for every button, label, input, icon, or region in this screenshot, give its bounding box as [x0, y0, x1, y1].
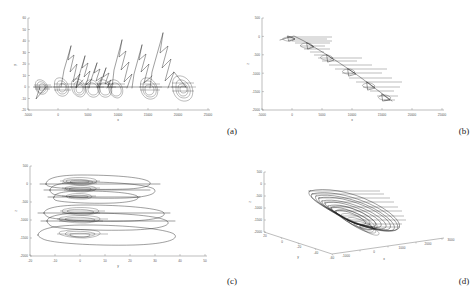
panel-d-ztick-2: -500 — [256, 194, 262, 198]
caption-b: (b) — [232, 126, 474, 136]
panel-c-xtick-7: 50 — [203, 259, 207, 263]
panel-d-ytick-2: -20 — [297, 245, 302, 249]
panel-c-xtick-1: -10 — [53, 259, 58, 263]
panel-a-trajectory — [33, 33, 196, 101]
panel-a-xtick-4: 15000 — [144, 113, 153, 117]
panel-c-axes: 500 0 -500 -1000 -1500 -2000 -20 -10 0 1… — [14, 164, 207, 268]
panel-c-ytick-4: -1500 — [20, 236, 28, 240]
panel-a-axes: 60 50 40 30 20 10 0 -10 -20 -5000 0 5000… — [13, 16, 213, 122]
panel-a-ytick-4: 20 — [23, 62, 27, 66]
panel-d-xtick-4: 3000 — [448, 238, 455, 242]
panel-c-xtick-6: 40 — [178, 259, 182, 263]
panel-b-xtick-3: 10000 — [348, 113, 357, 117]
panel-a-ytick-5: 10 — [23, 74, 27, 78]
panel-d-ztick-3: -1000 — [254, 206, 262, 210]
panel-b-xtick-6: 25000 — [438, 113, 447, 117]
panel-c-trajectory — [38, 175, 175, 245]
panel-b-yaxis-label: z — [246, 63, 250, 65]
panel-b-ytick-1: 0 — [258, 35, 260, 39]
panel-b-xtick-4: 15000 — [378, 113, 387, 117]
panel-a-ytick-7: -10 — [22, 97, 27, 101]
panel-c-ytick-1: 0 — [26, 182, 28, 186]
panel-a-ytick-3: 30 — [23, 51, 27, 55]
panel-b-trajectory — [280, 36, 402, 101]
panel-d-xtick-0: -1000 — [342, 254, 350, 258]
panel-d-ytick-3: -40 — [314, 251, 319, 255]
panel-a-xtick-1: 0 — [57, 113, 59, 117]
panel-d-ytick-1: 0 — [281, 240, 283, 244]
panel-d-ytick-4: -60 — [330, 256, 335, 260]
panel-d-axes: 500 0 -500 -1000 -1500 -2000 20 0 -20 -4… — [248, 170, 455, 261]
panel-a-ytick-0: 60 — [23, 16, 27, 20]
panel-c-xtick-0: -20 — [28, 259, 33, 263]
panel-a-xtick-0: -5000 — [24, 113, 32, 117]
caption-d: (d) — [232, 276, 474, 286]
panel-b-xtick-5: 20000 — [408, 113, 417, 117]
panel-a-xtick-6: 25000 — [204, 113, 213, 117]
panel-b-ytick-3: -1000 — [252, 72, 260, 76]
panel-d-yaxis-label: y — [297, 255, 299, 259]
panel-d-xtick-1: 0 — [373, 250, 375, 254]
panel-a-xtick-5: 20000 — [174, 113, 183, 117]
panel-a-xtick-3: 10000 — [114, 113, 123, 117]
panel-a-ytick-6: 0 — [24, 85, 26, 89]
panel-d-ztick-1: 0 — [260, 182, 262, 186]
panel-d-xaxis-label: x — [383, 257, 385, 261]
panel-c-xaxis-label: y — [117, 264, 119, 268]
panel-c-ytick-3: -1000 — [20, 218, 28, 222]
panel-c-xtick-2: 0 — [79, 259, 81, 263]
panel-a-ytick-1: 50 — [23, 28, 27, 32]
panel-c-ytick-2: -500 — [22, 200, 28, 204]
panel-c-xtick-4: 20 — [128, 259, 132, 263]
panel-d-zaxis-label: z — [248, 201, 252, 203]
panel-d-xtick-2: 1000 — [399, 246, 406, 250]
panel-a-ytick-2: 40 — [23, 39, 27, 43]
panel-c-yaxis-label: z — [14, 210, 18, 212]
panel-a-xtick-2: 5000 — [85, 113, 92, 117]
panel-b-ytick-0: 500 — [255, 16, 260, 20]
panel-b-ytick-4: -1500 — [252, 90, 260, 94]
panel-b-xtick-0: -5000 — [258, 113, 266, 117]
panel-c-ytick-0: 500 — [23, 164, 28, 168]
panel-d-ztick-4: -1500 — [254, 218, 262, 222]
panel-a-yaxis-label: y — [13, 64, 17, 66]
panel-b-xtick-1: 0 — [291, 113, 293, 117]
panel-d-trajectory — [308, 189, 406, 235]
panel-c-xtick-5: 30 — [153, 259, 157, 263]
panel-d-ztick-5: -2000 — [254, 230, 262, 234]
panel-b-ytick-2: -500 — [254, 53, 260, 57]
panel-d-ytick-0: 20 — [263, 234, 267, 238]
panel-d-ztick-0: 500 — [257, 170, 262, 174]
panel-b-xaxis-label: x — [351, 118, 353, 122]
panel-d-xtick-3: 2000 — [425, 242, 432, 246]
panel-b-xtick-2: 5000 — [319, 113, 326, 117]
panel-a-xaxis-label: x — [117, 118, 119, 122]
panel-c-xtick-3: 10 — [103, 259, 107, 263]
